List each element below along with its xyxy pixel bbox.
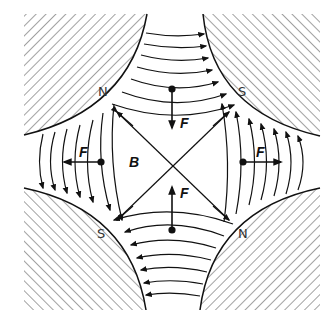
pole-label-bottom-right: N [238, 226, 248, 241]
force-left [64, 159, 104, 165]
force-label-left: F [79, 144, 88, 160]
force-label-bottom: F [180, 185, 189, 201]
pole-label-top-left: N [98, 84, 108, 99]
force-label-right: F [256, 144, 265, 160]
pole-label-bottom-left: S [97, 226, 105, 241]
pole-top-left [24, 14, 147, 135]
pole-bottom-right [200, 188, 320, 310]
pole-label-top-right: S [238, 84, 246, 99]
force-top [169, 86, 175, 128]
force-bottom [169, 187, 175, 233]
pole-top-right [203, 14, 320, 136]
force-right [240, 159, 281, 165]
field-label-b: B [129, 154, 139, 170]
pole-bottom-left [24, 188, 146, 310]
quadrupole-diagram: N S S N B F F F F [0, 0, 336, 329]
force-label-top: F [180, 115, 189, 131]
